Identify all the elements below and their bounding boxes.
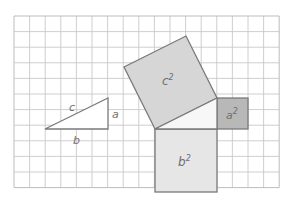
label-side-c: c: [69, 101, 75, 114]
pythagoras-diagram: c a b c2 a2 b2: [0, 0, 295, 223]
label-side-b: b: [73, 134, 80, 147]
label-side-a: a: [112, 108, 119, 121]
